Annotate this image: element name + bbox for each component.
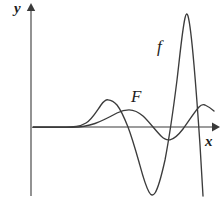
- math-figure: y x f F: [0, 0, 220, 200]
- curve-label-F-capital: F: [131, 88, 141, 105]
- figure-canvas: [0, 0, 220, 200]
- y-axis-label: y: [14, 1, 21, 16]
- curve-f: [33, 14, 203, 196]
- curve-F: [33, 105, 214, 140]
- x-axis-arrowhead: [212, 123, 220, 132]
- x-axis-label: x: [205, 134, 213, 149]
- y-axis-arrowhead: [27, 3, 35, 11]
- curve-label-f: f: [157, 38, 162, 55]
